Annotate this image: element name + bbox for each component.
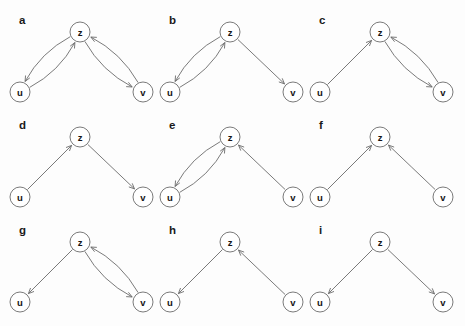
node-label-v: v xyxy=(440,192,446,203)
graph-panel-d: duzv xyxy=(10,119,153,207)
node-v: v xyxy=(133,82,153,102)
panel-label-c: c xyxy=(319,14,326,26)
node-label-z: z xyxy=(78,237,83,248)
graph-panel-c: cuzv xyxy=(310,14,453,102)
node-v: v xyxy=(283,187,303,207)
graph-panel-i: iuzv xyxy=(310,224,453,312)
graph-panel-g: guzv xyxy=(10,224,153,312)
node-z: z xyxy=(70,232,90,252)
node-label-z: z xyxy=(378,27,383,38)
node-v: v xyxy=(133,292,153,312)
node-label-v: v xyxy=(440,297,446,308)
graph-panel-h: huzv xyxy=(160,224,303,312)
panel-label-i: i xyxy=(319,224,322,236)
node-label-z: z xyxy=(378,132,383,143)
node-label-z: z xyxy=(228,27,233,38)
node-z: z xyxy=(370,232,390,252)
node-label-u: u xyxy=(17,192,23,203)
node-v: v xyxy=(283,82,303,102)
panel-label-f: f xyxy=(319,119,323,131)
node-label-v: v xyxy=(140,87,146,98)
node-label-z: z xyxy=(78,132,83,143)
node-label-u: u xyxy=(17,87,23,98)
node-label-v: v xyxy=(140,192,146,203)
panel-label-g: g xyxy=(19,224,26,236)
edge-group xyxy=(28,145,135,190)
node-z: z xyxy=(370,127,390,147)
node-u: u xyxy=(160,292,180,312)
node-u: u xyxy=(310,82,330,102)
node-v: v xyxy=(433,82,453,102)
node-u: u xyxy=(160,187,180,207)
node-label-u: u xyxy=(317,192,323,203)
node-u: u xyxy=(310,292,330,312)
node-label-z: z xyxy=(228,132,233,143)
figure-canvas: auzvbuzvcuzvduzveuzvfuzvguzvhuzviuzv xyxy=(0,0,465,326)
node-label-u: u xyxy=(167,192,173,203)
edge-group xyxy=(328,250,434,294)
graph-panel-e: euzv xyxy=(160,119,303,207)
node-v: v xyxy=(433,187,453,207)
edge-group xyxy=(25,37,138,88)
node-label-z: z xyxy=(378,237,383,248)
edge-group xyxy=(175,37,284,88)
node-z: z xyxy=(220,232,240,252)
node-label-v: v xyxy=(290,192,296,203)
node-label-u: u xyxy=(167,87,173,98)
node-v: v xyxy=(283,292,303,312)
graph-diagram-grid: auzvbuzvcuzvduzveuzvfuzvguzvhuzviuzv xyxy=(0,0,465,326)
edge-group xyxy=(28,247,138,297)
node-v: v xyxy=(433,292,453,312)
node-label-v: v xyxy=(290,297,296,308)
edge-group xyxy=(328,37,439,87)
node-label-u: u xyxy=(317,87,323,98)
panel-label-a: a xyxy=(19,14,26,26)
node-label-z: z xyxy=(228,237,233,248)
node-u: u xyxy=(10,187,30,207)
panel-label-h: h xyxy=(169,224,176,236)
node-u: u xyxy=(10,82,30,102)
node-z: z xyxy=(220,127,240,147)
node-u: u xyxy=(10,292,30,312)
graph-panel-a: auzv xyxy=(10,14,153,102)
node-v: v xyxy=(133,187,153,207)
node-z: z xyxy=(70,22,90,42)
edge-group xyxy=(178,250,285,295)
node-label-v: v xyxy=(440,87,446,98)
node-u: u xyxy=(310,187,330,207)
edge-group xyxy=(328,145,436,189)
node-z: z xyxy=(220,22,240,42)
panel-label-b: b xyxy=(169,14,176,26)
node-z: z xyxy=(370,22,390,42)
edge-group xyxy=(175,142,285,193)
panel-label-e: e xyxy=(169,119,175,131)
node-label-z: z xyxy=(78,27,83,38)
graph-panel-b: buzv xyxy=(160,14,303,102)
graph-panel-f: fuzv xyxy=(310,119,453,207)
panel-label-d: d xyxy=(19,119,26,131)
node-label-u: u xyxy=(17,297,23,308)
node-label-v: v xyxy=(140,297,146,308)
node-z: z xyxy=(70,127,90,147)
node-label-u: u xyxy=(167,297,173,308)
node-u: u xyxy=(160,82,180,102)
node-label-v: v xyxy=(290,87,296,98)
node-label-u: u xyxy=(317,297,323,308)
